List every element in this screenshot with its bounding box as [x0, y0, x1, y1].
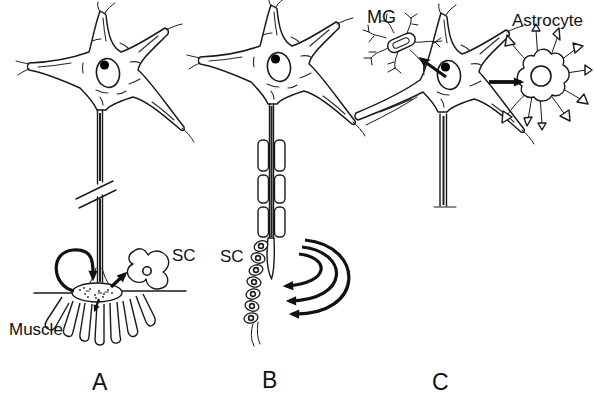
schwann-cell-chain — [243, 239, 269, 346]
neuron-glia-diagram: SC Muscle A — [0, 0, 594, 401]
axon-a — [76, 110, 116, 288]
panel-c: MG Astrocyte C — [355, 4, 592, 395]
panel-letter-b: B — [262, 367, 277, 393]
figure-canvas: SC Muscle A — [0, 0, 594, 401]
sc-label-b: SC — [220, 247, 244, 266]
axon-c — [434, 114, 456, 207]
astrocyte-label: Astrocyte — [512, 11, 583, 30]
muscle-label: Muscle — [9, 320, 63, 339]
schwann-cell-a — [127, 249, 168, 289]
neuron-a-soma — [16, 2, 194, 142]
axon-b — [270, 104, 274, 238]
axon-break-mark — [76, 181, 116, 208]
neuron-b-soma — [187, 0, 365, 136]
regeneration-arrows — [286, 240, 349, 314]
panel-letter-a: A — [92, 369, 108, 395]
astrocyte-cell — [502, 24, 592, 130]
panel-a: SC Muscle A — [9, 2, 196, 395]
terminal-to-sc-arrow — [111, 274, 125, 287]
sc-label-a: SC — [172, 246, 196, 265]
panel-b: SC B — [187, 0, 365, 393]
panel-letter-c: C — [432, 369, 449, 395]
mg-label: MG — [367, 7, 396, 27]
